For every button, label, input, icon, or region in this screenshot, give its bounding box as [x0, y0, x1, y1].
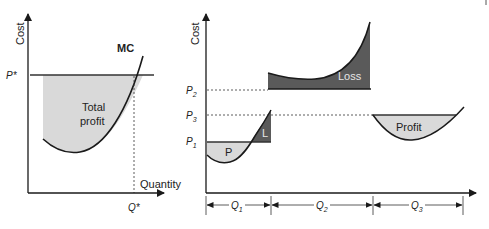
y-axis-label: Cost — [189, 22, 201, 45]
profit-label: Profit — [396, 121, 422, 133]
right-diagram: Loss Profit P L Cost P2 P3 P1 Q1 Q2 Q3 — [186, 14, 476, 215]
loss-label: Loss — [338, 70, 362, 82]
mc-label: MC — [117, 42, 134, 54]
p2-label: P2 — [186, 85, 197, 98]
l-region-label: L — [262, 127, 268, 139]
p1-label: P1 — [186, 136, 197, 149]
p-star-label: P* — [6, 70, 18, 81]
total-profit-label-1: Total — [82, 101, 105, 113]
p3-label: P3 — [186, 110, 197, 123]
total-profit-area — [43, 75, 143, 152]
left-diagram: Cost Quantity MC P* Q* Total profit — [6, 14, 181, 213]
cost-diagrams: Cost Quantity MC P* Q* Total profit Loss… — [0, 0, 489, 229]
q-star-label: Q* — [128, 202, 141, 213]
x-axis-label: Quantity — [140, 178, 181, 190]
y-axis-label: Cost — [14, 22, 26, 45]
total-profit-label-2: profit — [80, 115, 104, 127]
p-region-label: P — [225, 146, 232, 158]
